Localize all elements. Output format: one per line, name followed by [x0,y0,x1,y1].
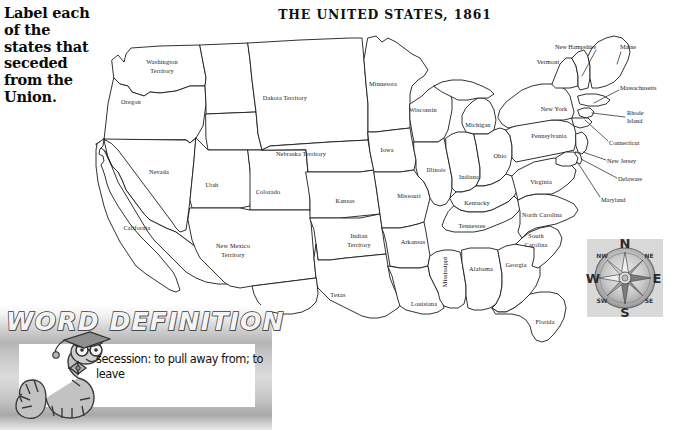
state-label-line: Dakota Territory [263,94,307,102]
callout-label-maine: Maine [620,43,636,51]
state-label-line: Kansas [335,197,354,205]
state-label-line: Washington [146,58,177,67]
state-label-line: Territory [347,240,371,249]
state-label-line: Colorado [256,188,281,196]
state-label-line: Carolina [525,240,548,249]
state-label-nevada: Nevada [149,168,169,176]
state-label-indian-territory: IndianTerritory [347,232,371,249]
compass-north-label: N [620,236,631,251]
state-label-line: Virginia [530,178,552,186]
state-label-line: Indiana [459,173,479,181]
state-label-tennessee: Tennessee [458,222,485,230]
callout-label-new-jersey: New Jersey [607,157,636,165]
state-label-line: Kentucky [464,199,490,207]
state-label-indiana: Indiana [459,173,479,181]
state-label-georgia: Georgia [505,261,526,269]
state-label-line: Tennessee [458,222,485,230]
state-label-louisiana: Louisiana [411,300,437,308]
word-definition-text: secession: to pull away from; to leave [96,352,264,382]
state-label-new-york: New York [541,105,568,113]
state-label-south-carolina: SouthCarolina [525,232,548,249]
callout-label-line: Connecticut [609,139,639,147]
state-label-wisconsin: Wisconsin [409,106,437,114]
state-label-vermont: Vermont [537,58,560,66]
state-label-line: Alabama [469,265,493,273]
state-label-line: Vermont [537,58,560,66]
callout-label-line: Delaware [618,175,642,183]
state-label-line: Arkansas [401,238,426,246]
compass-northeast-label: NE [644,252,653,259]
state-label-new-mexico-territory: New MexicoTerritory [216,242,250,259]
callout-label-line: Rhode [627,109,643,117]
state-label-line: Louisiana [411,300,437,308]
state-label-nebraska-territory: Nebraska Territory [276,150,326,158]
state-label-missouri: Missouri [397,192,421,200]
state-label-line: Wisconsin [409,106,437,114]
state-label-washington-territory: WashingtonTerritory [146,58,177,75]
state-label-florida: Florida [535,318,554,326]
state-label-utah: Utah [206,181,219,189]
state-label-arkansas: Arkansas [401,238,426,246]
compass-northwest-label: NW [596,252,608,259]
compass-southeast-label: SE [645,297,653,304]
state-label-line: Nevada [149,168,169,176]
state-borders [96,36,630,342]
state-label-line: Territory [216,250,250,259]
state-label-line: Nebraska Territory [276,150,326,158]
state-label-colorado: Colorado [256,188,281,196]
state-label-kansas: Kansas [335,197,354,205]
state-label-minnesota: Minnesota [369,80,397,88]
state-label-dakota-territory: Dakota Territory [263,94,307,102]
callout-label-line: New Jersey [607,157,636,165]
state-label-line: Texas [330,291,345,299]
state-label-alabama: Alabama [469,265,493,273]
state-label-texas: Texas [330,291,345,299]
compass-south-label: S [620,305,629,320]
compass-southwest-label: SW [597,297,608,304]
worksheet-page: Label each of the states that seceded fr… [0,0,673,430]
callout-label-massachusetts: Massachusetts [620,84,656,92]
state-label-line: New Mexico [216,242,250,251]
compass-east-label: E [653,271,662,286]
state-label-line: Missouri [397,192,421,200]
state-label-illinois: Illinois [426,166,445,174]
state-label-north-carolina: North Carolina [522,211,562,219]
callout-label-line: Massachusetts [620,84,656,92]
state-label-california: California [123,224,150,232]
callout-label-connecticut: Connecticut [609,139,639,147]
callout-label-line: Island [627,117,643,125]
callout-label-line: Maine [620,43,636,51]
state-label-line: Pennsylvania [531,132,566,140]
state-label-line: Mississippi [441,257,449,287]
state-label-line: California [123,224,150,232]
state-label-line: New York [541,105,568,113]
state-label-line: Indian [347,232,371,241]
state-label-pennsylvania: Pennsylvania [531,132,566,140]
state-label-mississippi: Mississippi [441,257,449,287]
callout-label-new-hampshire: New Hampshire [555,43,596,51]
callout-label-rhode-island: RhodeIsland [627,109,643,125]
state-label-line: Territory [146,66,177,75]
state-label-line: Oregon [121,98,141,106]
callout-label-delaware: Delaware [618,175,642,183]
state-label-line: Iowa [380,146,393,154]
state-label-line: Florida [535,318,554,326]
callout-label-line: Maryland [601,196,625,204]
state-label-iowa: Iowa [380,146,393,154]
state-label-virginia: Virginia [530,178,552,186]
state-label-line: Michigan [465,121,490,129]
state-label-michigan: Michigan [465,121,490,129]
compass-west-label: W [586,271,600,286]
state-label-line: Illinois [426,166,445,174]
callout-label-line: New Hampshire [555,43,596,51]
state-label-line: Minnesota [369,80,397,88]
callout-label-maryland: Maryland [601,196,625,204]
compass-rose: N S W E NW NE SW SE [585,235,665,320]
state-label-line: North Carolina [522,211,562,219]
state-label-ohio: Ohio [493,152,506,160]
state-label-line: South [525,232,548,241]
state-label-kentucky: Kentucky [464,199,490,207]
state-label-line: Ohio [493,152,506,160]
state-label-line: Georgia [505,261,526,269]
state-label-line: Utah [206,181,219,189]
